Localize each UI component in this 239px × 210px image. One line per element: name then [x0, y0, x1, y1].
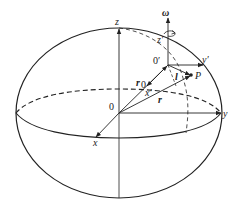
equator-front: [16, 113, 221, 138]
x-prime-axis: [147, 65, 168, 86]
label-z-prime: z′: [156, 34, 164, 45]
label-omega: ω: [162, 7, 169, 18]
label-origin: 0: [109, 101, 114, 112]
x-axis: [96, 113, 119, 137]
earth-frames-diagram: z y x 0 0′ z′ y′ x′ ω r 0 r l P: [0, 0, 239, 210]
r-vector: [119, 76, 190, 113]
label-y: y: [222, 108, 228, 119]
equator-back: [16, 89, 221, 113]
l-vector: [168, 65, 190, 75]
label-r: r: [158, 94, 162, 105]
label-l: l: [175, 71, 178, 82]
label-z: z: [114, 16, 119, 27]
label-r0: r: [136, 77, 140, 88]
label-p: P: [194, 70, 201, 81]
label-r0-sub: 0: [141, 79, 146, 90]
point-p: [189, 73, 193, 77]
label-x: x: [92, 137, 98, 148]
label-y-prime: y′: [201, 54, 209, 65]
label-origin-prime: 0′: [153, 55, 160, 66]
